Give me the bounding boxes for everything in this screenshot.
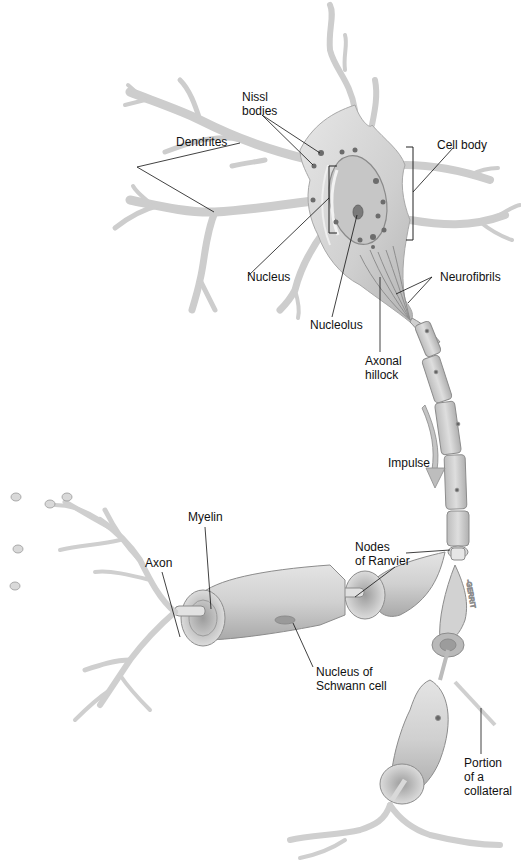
cell-body <box>300 105 412 322</box>
label-neurofibrils: Neurofibrils <box>440 270 501 284</box>
label-nodes-of-ranvier: Nodes of Ranvier <box>355 540 410 568</box>
axon-terminals-bottom <box>290 805 500 858</box>
label-nucleus: Nucleus <box>247 270 290 284</box>
label-nucleolus: Nucleolus <box>310 318 363 332</box>
label-dendrites: Dendrites <box>176 135 227 149</box>
label-axon: Axon <box>145 556 172 570</box>
node-of-ranvier-junction <box>448 546 468 560</box>
label-portion-of-collateral: Portion of a collateral <box>464 756 512 798</box>
label-myelin: Myelin <box>188 510 223 524</box>
label-nucleus-of-schwann-cell: Nucleus of Schwann cell <box>316 665 387 693</box>
schwann-cell-nucleus <box>275 616 295 624</box>
label-axonal-hillock: Axonal hillock <box>365 354 402 382</box>
axon-upper-segments <box>410 318 469 546</box>
axon-terminals-left <box>55 502 175 720</box>
neuron-diagram: -GERRIT <box>0 0 521 864</box>
terminal-bulbs <box>10 493 72 590</box>
label-impulse: Impulse <box>388 456 430 470</box>
nucleolus <box>353 205 363 219</box>
label-nissl-bodies: Nissl bodies <box>242 90 277 118</box>
label-cell-body: Cell body <box>437 138 487 152</box>
